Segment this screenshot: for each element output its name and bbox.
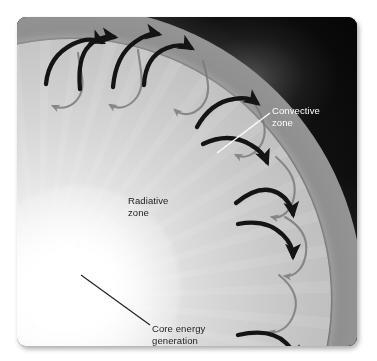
label-radiative-zone: Radiative zone — [128, 195, 169, 218]
annotation-vector-layer — [17, 17, 357, 346]
sun-cross-section-figure: Convective zone Radiative zone Core ener… — [17, 17, 357, 346]
illustration-stage: Convective zone Radiative zone Core ener… — [0, 0, 377, 361]
convective-zone-leader-line — [217, 113, 270, 153]
label-core-energy-generation: Core energy generation — [152, 323, 205, 346]
core-energy-leader-line — [81, 275, 150, 325]
label-convective-zone: Convective zone — [272, 105, 320, 128]
